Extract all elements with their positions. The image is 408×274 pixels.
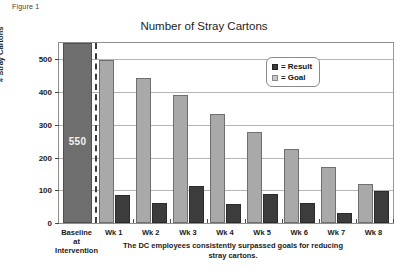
- x-axis-tick: [393, 219, 394, 223]
- legend-label-goal: Goal: [288, 72, 306, 83]
- legend-swatch-goal-icon: [272, 75, 278, 81]
- y-axis-tick-label: 400: [12, 88, 52, 97]
- bar-result-wk8: [374, 191, 389, 223]
- y-axis-tick: [55, 92, 59, 93]
- x-axis-tick: [170, 219, 171, 223]
- bar-result-wk7: [337, 213, 352, 223]
- x-axis-tick: [96, 219, 97, 223]
- bar-result-wk1: [115, 195, 130, 223]
- x-axis-tick-label-line: Intervention: [52, 246, 101, 255]
- bar-goal-wk5: [247, 132, 262, 223]
- y-axis-tick-label: 200: [12, 153, 52, 162]
- y-axis-tick-label: 300: [12, 120, 52, 129]
- y-axis-tick-label: 100: [12, 186, 52, 195]
- x-axis-tick-label: Wk 8: [349, 228, 398, 237]
- chart-container: # Stray Cartons 550 0100200300400500 Bas…: [0, 0, 408, 274]
- legend-swatch-result-icon: [272, 64, 278, 70]
- plot-area: 550: [58, 42, 394, 224]
- bar-goal-wk8: [358, 184, 373, 223]
- bar-result-wk4: [226, 204, 241, 223]
- bar-goal-wk7: [321, 167, 336, 223]
- y-axis-tick: [55, 125, 59, 126]
- bar-result-wk2: [152, 203, 167, 223]
- y-axis-tick: [55, 59, 59, 60]
- bar-goal-wk4: [210, 114, 225, 223]
- y-axis-tick-label: 0: [12, 219, 52, 228]
- x-axis-tick-label-line: at: [52, 237, 101, 246]
- x-axis-tick: [133, 219, 134, 223]
- legend-item-result: = Result: [272, 61, 312, 72]
- bar-goal-wk2: [136, 78, 151, 223]
- y-axis-tick: [55, 223, 59, 224]
- y-axis-tick: [55, 158, 59, 159]
- bar-result-wk3: [189, 186, 204, 223]
- legend-equals-result: =: [281, 61, 286, 72]
- intervention-divider-line: [95, 43, 97, 223]
- bar-baseline: 550: [63, 43, 93, 223]
- figure-caption: The DC employees consistently surpassed …: [118, 241, 348, 260]
- x-axis-tick-label-line: Wk 8: [349, 228, 398, 237]
- legend-label-result: Result: [288, 61, 312, 72]
- x-axis-tick: [319, 219, 320, 223]
- legend-item-goal: = Goal: [272, 72, 312, 83]
- chart-legend: = Result = Goal: [266, 57, 320, 87]
- bar-result-wk6: [300, 203, 315, 223]
- x-axis-tick: [207, 219, 208, 223]
- baseline-value-label: 550: [64, 136, 92, 147]
- x-axis-tick: [282, 219, 283, 223]
- x-axis-tick: [356, 219, 357, 223]
- bar-goal-wk6: [284, 149, 299, 223]
- y-axis-label: # Stray Cartons: [0, 27, 5, 82]
- bar-result-wk5: [263, 194, 278, 223]
- bar-goal-wk1: [99, 60, 114, 223]
- legend-equals-goal: =: [281, 72, 286, 83]
- bar-goal-wk3: [173, 95, 188, 223]
- x-axis-tick: [245, 219, 246, 223]
- y-axis-tick-label: 500: [12, 55, 52, 64]
- y-axis-tick: [55, 190, 59, 191]
